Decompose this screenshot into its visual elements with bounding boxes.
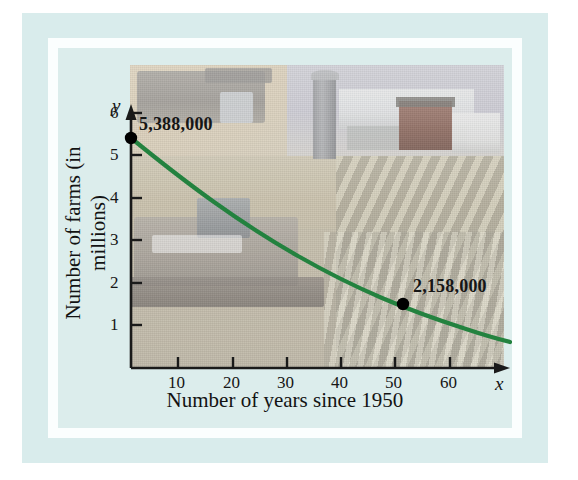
x-axis-title: Number of years since 1950 (58, 388, 512, 413)
data-point-label-2: 2,158,000 (413, 276, 487, 297)
y-tick-label-5: 5 (110, 145, 119, 165)
x-axis (131, 363, 510, 374)
y-axis-title: Number of farms (in millions) (61, 113, 111, 353)
y-tick-label-4: 4 (110, 188, 119, 208)
graph-svg (58, 48, 512, 428)
data-point-label-1: 5,388,000 (139, 114, 213, 135)
y-axis-variable: y (112, 95, 120, 117)
y-tick-label-3: 3 (110, 230, 119, 250)
y-tick-label-1: 1 (110, 315, 119, 335)
figure-root: 6 5 4 3 2 1 10 20 30 40 50 60 y x 5,388,… (0, 0, 578, 480)
x-tick-marks (178, 357, 450, 368)
data-point-marker-2 (397, 298, 409, 310)
graph-plate: 6 5 4 3 2 1 10 20 30 40 50 60 y x 5,388,… (58, 48, 512, 428)
data-point-marker-1 (125, 132, 137, 144)
decay-curve (131, 138, 510, 342)
y-tick-label-2: 2 (110, 273, 119, 293)
